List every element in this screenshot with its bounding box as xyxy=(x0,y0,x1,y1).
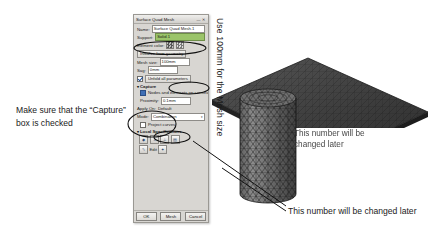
project-curves-checkbox[interactable] xyxy=(140,122,146,128)
local-specs-toolbar[interactable]: ◆ ⊥ ⊥ ▤ xyxy=(139,135,205,144)
chevron-down-icon[interactable]: ▾ xyxy=(137,129,139,134)
project-curves-label: Project curves xyxy=(148,122,175,127)
capture-nodes-label: Nodes and elements on constraints xyxy=(148,90,209,95)
mode-row: Mode: Combination ▾ xyxy=(137,113,205,120)
ok-button[interactable]: OK xyxy=(136,212,157,221)
unfold-parameters-row[interactable]: Unfold all parameters xyxy=(137,75,205,82)
unfold-parameters-label[interactable]: Unfold all parameters xyxy=(145,75,191,83)
screenshot-root: This number will be changed later Use 10… xyxy=(0,0,444,236)
mode-value: Combination xyxy=(153,114,177,120)
edit-toolbar[interactable]: ✎ Edit ✦ xyxy=(139,145,205,154)
mesh-size-row: Mesh size: 100mm xyxy=(137,59,205,66)
edit-label: Edit xyxy=(150,147,157,152)
name-row: Name: Surface Quad Mesh.1 xyxy=(137,26,205,33)
support-input[interactable]: Solid.1 xyxy=(155,33,205,41)
mesh-size-label: Mesh size: xyxy=(137,60,158,65)
window-controls[interactable]: — ✕ xyxy=(196,17,206,22)
name-input[interactable]: Surface Quad Mesh.1 xyxy=(152,25,205,33)
anchor-icon[interactable]: ⊥ xyxy=(150,135,159,144)
project-curves-row[interactable]: Project curves xyxy=(137,122,205,128)
capture-note: Make sure that the “Capture” box is chec… xyxy=(16,104,126,130)
support-label: Support: xyxy=(137,35,153,40)
proximity-input[interactable]: 0.1mm xyxy=(161,97,191,105)
mesh-button[interactable]: Mesh xyxy=(160,212,181,221)
mesh-size-note: Use 100mm for the Mesh size xyxy=(214,18,226,136)
capture-nodes-checkbox[interactable] xyxy=(140,90,146,96)
sag-input[interactable]: 0mm xyxy=(148,66,178,74)
edit-icon[interactable]: ✎ xyxy=(139,145,148,154)
pin-icon[interactable]: ◆ xyxy=(139,135,148,144)
dialog-title-bar[interactable]: Surface Quad Mesh — ✕ xyxy=(134,15,208,24)
apply-on-value[interactable]: Default xyxy=(158,106,172,111)
dialog-title: Surface Quad Mesh xyxy=(136,17,196,22)
apply-on-label: Apply On: xyxy=(137,106,156,111)
initialize-from-geometry-button[interactable]: Initialize from geometry xyxy=(137,50,186,58)
element-color-swatch[interactable] xyxy=(166,41,174,49)
sag-label: Sag: xyxy=(137,68,146,73)
cylinder-note: This number will be changed later xyxy=(294,128,386,150)
capture-section-header[interactable]: ▾Capture xyxy=(137,84,205,89)
dialog-footer: OK Mesh Cancel xyxy=(134,210,208,222)
local-specs-header[interactable]: ▾Local Specifications xyxy=(137,129,205,134)
meshed-cylinder xyxy=(238,84,298,212)
mesh-size-input[interactable]: 100mm xyxy=(160,58,190,66)
apply-on-row: Apply On: Default xyxy=(137,105,205,112)
capture-nodes-row[interactable]: Nodes and elements on constraints xyxy=(137,90,205,96)
surface-quad-mesh-dialog[interactable]: Surface Quad Mesh — ✕ Name: Surface Quad… xyxy=(133,14,209,223)
element-color-row: Element color: xyxy=(137,42,205,49)
element-color-swatch-secondary[interactable] xyxy=(176,41,184,49)
chevron-down-icon[interactable]: ▾ xyxy=(201,114,203,120)
constraint-icon[interactable]: ⊥ xyxy=(160,135,169,144)
sag-row: Sag: 0mm xyxy=(137,67,205,74)
viewport-3d xyxy=(220,0,444,236)
proximity-row: Proximity: 0.1mm xyxy=(137,97,205,104)
capture-section-label: Capture xyxy=(140,84,156,89)
initialize-row[interactable]: Initialize from geometry xyxy=(137,50,205,57)
name-label: Name: xyxy=(137,27,150,32)
unfold-parameters-checkbox[interactable] xyxy=(137,76,143,82)
dialog-body: Name: Surface Quad Mesh.1 Support: Solid… xyxy=(134,24,208,157)
mode-label: Mode: xyxy=(137,114,149,119)
mode-select[interactable]: Combination ▾ xyxy=(151,113,205,121)
local-specs-label: Local Specifications xyxy=(140,129,182,134)
table-icon[interactable]: ▤ xyxy=(171,135,180,144)
support-row: Support: Solid.1 xyxy=(137,34,205,41)
element-color-label: Element color: xyxy=(137,43,164,48)
wand-icon[interactable]: ✦ xyxy=(158,145,167,154)
change-later-note: This number will be changed later xyxy=(288,205,417,217)
cancel-button[interactable]: Cancel xyxy=(185,212,206,221)
chevron-down-icon[interactable]: ▾ xyxy=(137,84,139,89)
proximity-label: Proximity: xyxy=(140,98,159,103)
meshed-plane xyxy=(200,8,430,128)
